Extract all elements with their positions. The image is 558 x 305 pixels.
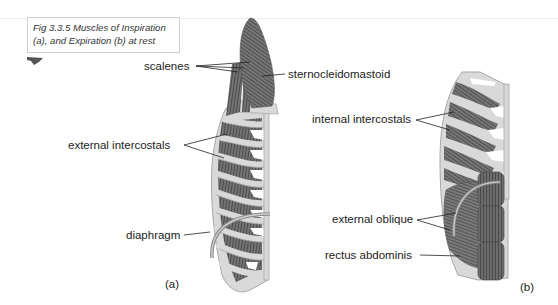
label-internal-intercostals: internal intercostals xyxy=(312,113,411,126)
label-scalenes: scalenes xyxy=(144,60,189,73)
label-external-intercostals: external intercostals xyxy=(68,139,170,152)
rectus-abdominis-muscle xyxy=(478,172,504,280)
panel-label-b: (b) xyxy=(520,281,534,294)
label-rectus-abdominis: rectus abdominis xyxy=(325,249,412,262)
anatomy-illustration xyxy=(0,0,558,305)
panel-label-a: (a) xyxy=(165,278,179,291)
ribcage-a xyxy=(211,100,278,292)
label-external-oblique: external oblique xyxy=(332,213,413,226)
label-sternocleidomastoid: sternocleidomastoid xyxy=(288,68,390,81)
label-diaphragm: diaphragm xyxy=(126,229,180,242)
